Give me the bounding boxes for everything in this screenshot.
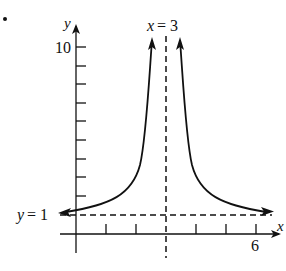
y-axis-label: y [62, 15, 71, 31]
y-ticks [76, 47, 86, 196]
svg-text:= 1: = 1 [27, 206, 48, 223]
vertical-asymptote-label: x = 3 [146, 17, 178, 34]
bullet-dot [3, 17, 7, 21]
x-axis-label: x [276, 218, 284, 234]
y-tick-label-10: 10 [55, 39, 71, 56]
graph: y x 10 6 x = 3 y = 1 [0, 0, 286, 271]
svg-text:x: x [146, 17, 154, 34]
svg-text:= 3: = 3 [157, 17, 178, 34]
x-ticks [106, 224, 256, 234]
horizontal-asymptote-label: y = 1 [15, 206, 48, 224]
x-tick-label-6: 6 [251, 237, 259, 254]
right-branch-curve [180, 40, 266, 212]
svg-text:y: y [15, 206, 25, 224]
